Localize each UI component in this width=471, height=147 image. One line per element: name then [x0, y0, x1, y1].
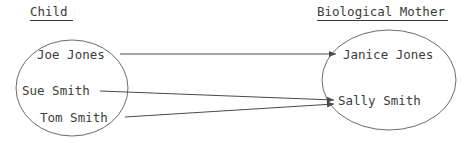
mapping-diagram-canvas: Child Biological Mother Joe Jones Sue Sm…: [0, 0, 471, 147]
arrowhead-sue-to-sally: [327, 97, 334, 103]
child-heading-label: Child: [30, 4, 68, 19]
child-member-tom-smith: Tom Smith: [40, 110, 108, 125]
biological-mother-set-ellipse: [322, 30, 456, 130]
arrowhead-tom-to-sally: [327, 101, 334, 107]
edge-tom-to-sally: [125, 104, 334, 117]
child-member-sue-smith: Sue Smith: [22, 83, 90, 98]
mother-member-janice-jones: Janice Jones: [343, 47, 433, 62]
edge-sue-to-sally: [100, 91, 334, 100]
arrowhead-joe-to-janice: [329, 51, 336, 57]
mother-member-sally-smith: Sally Smith: [338, 93, 421, 108]
child-member-joe-jones: Joe Jones: [37, 47, 105, 62]
mapping-diagram-page: Child Biological Mother Joe Jones Sue Sm…: [0, 0, 471, 147]
biological-mother-heading-label: Biological Mother: [317, 4, 445, 19]
